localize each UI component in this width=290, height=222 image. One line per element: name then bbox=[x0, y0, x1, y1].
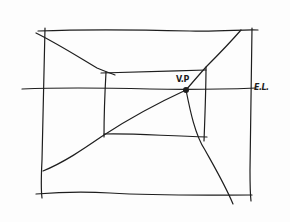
outer-frame-top bbox=[38, 30, 258, 31]
perspective-drawing bbox=[0, 0, 290, 222]
vanishing-point bbox=[183, 87, 189, 93]
orthogonal-bottom-right bbox=[186, 90, 233, 204]
outer-frame-right bbox=[250, 28, 252, 201]
orthogonal-top-right bbox=[186, 30, 241, 90]
eye-level-label: E.L. bbox=[254, 84, 269, 92]
orthogonal-top-left bbox=[36, 33, 115, 75]
outer-frame-left bbox=[41, 28, 45, 198]
inner-frame-top bbox=[101, 70, 206, 73]
sketch-canvas: V.P E.L. bbox=[0, 0, 290, 222]
eye-level-line bbox=[22, 88, 256, 90]
orthogonal-lines bbox=[36, 30, 241, 204]
orthogonal-bottom-left bbox=[43, 90, 186, 171]
inner-frame-bottom bbox=[104, 134, 207, 137]
inner-frame bbox=[101, 67, 207, 141]
outer-frame-bottom bbox=[36, 192, 252, 195]
outer-frame bbox=[36, 28, 258, 201]
vanishing-point-label: V.P bbox=[176, 76, 189, 84]
inner-frame-left bbox=[104, 72, 106, 137]
inner-frame-right bbox=[204, 67, 206, 141]
